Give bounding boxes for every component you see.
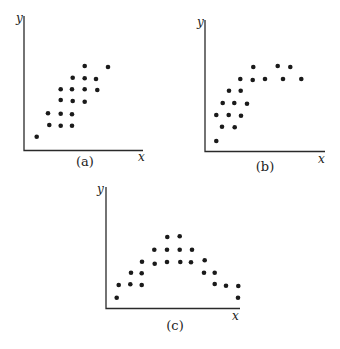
data-point bbox=[70, 75, 75, 80]
data-point bbox=[202, 258, 207, 263]
data-point bbox=[214, 139, 219, 144]
data-point bbox=[236, 284, 241, 289]
data-point bbox=[58, 98, 63, 103]
data-point bbox=[34, 134, 39, 139]
data-point bbox=[140, 259, 145, 264]
y-axis-label: y bbox=[196, 15, 204, 29]
data-point bbox=[236, 295, 241, 300]
panel-c: y x (c) bbox=[96, 182, 241, 333]
data-point bbox=[251, 65, 256, 70]
data-point bbox=[46, 111, 51, 116]
axes bbox=[106, 187, 240, 309]
data-point bbox=[82, 99, 87, 104]
data-point bbox=[299, 77, 304, 82]
data-point bbox=[245, 101, 250, 106]
data-point bbox=[165, 247, 170, 252]
data-point bbox=[227, 88, 232, 93]
data-point bbox=[165, 260, 170, 265]
data-point bbox=[238, 88, 243, 93]
panel-a: y x (a) bbox=[15, 11, 145, 169]
data-point bbox=[116, 283, 121, 288]
data-point bbox=[189, 260, 194, 265]
data-point bbox=[190, 247, 195, 252]
data-point bbox=[58, 111, 63, 116]
data-point bbox=[212, 270, 217, 275]
data-point bbox=[70, 87, 75, 92]
data-point bbox=[224, 283, 229, 288]
data-point bbox=[152, 247, 157, 252]
data-point bbox=[232, 125, 237, 130]
data-point bbox=[238, 77, 243, 82]
data-point bbox=[95, 88, 100, 93]
data-point bbox=[139, 271, 144, 276]
data-point bbox=[281, 77, 286, 82]
data-point bbox=[250, 78, 255, 83]
data-point bbox=[165, 235, 170, 240]
data-point bbox=[70, 99, 75, 104]
data-point bbox=[70, 112, 75, 117]
data-point bbox=[128, 282, 133, 287]
data-point bbox=[220, 101, 225, 106]
data-point bbox=[177, 247, 182, 252]
data-point bbox=[202, 270, 207, 275]
data-point bbox=[212, 282, 217, 287]
data-point bbox=[214, 113, 219, 118]
data-point bbox=[275, 64, 280, 69]
data-points bbox=[34, 64, 110, 139]
data-point bbox=[129, 270, 134, 275]
x-axis-label: x bbox=[318, 152, 325, 166]
data-point bbox=[177, 234, 182, 239]
data-point bbox=[178, 260, 183, 265]
data-point bbox=[232, 101, 237, 106]
axes bbox=[205, 20, 325, 152]
y-axis-label: y bbox=[15, 11, 23, 25]
data-point bbox=[82, 76, 87, 81]
panel-b: y x (b) bbox=[196, 15, 325, 174]
data-point bbox=[94, 77, 99, 82]
data-point bbox=[288, 65, 293, 70]
data-point bbox=[226, 113, 231, 118]
panel-label: (c) bbox=[166, 318, 183, 333]
data-point bbox=[58, 123, 63, 128]
x-axis-label: x bbox=[138, 150, 145, 164]
data-point bbox=[47, 123, 52, 128]
data-point bbox=[263, 77, 268, 82]
data-point bbox=[82, 87, 87, 92]
data-points bbox=[114, 234, 240, 300]
data-point bbox=[139, 283, 144, 288]
data-point bbox=[70, 123, 75, 128]
y-axis-label: y bbox=[96, 182, 104, 196]
data-point bbox=[239, 113, 244, 118]
data-point bbox=[220, 124, 225, 129]
data-points bbox=[214, 64, 304, 144]
panel-label: (a) bbox=[76, 154, 94, 169]
data-point bbox=[152, 261, 157, 266]
data-point bbox=[58, 87, 63, 92]
scatter-figure: y x (a) y x (b) y x (c) bbox=[0, 0, 340, 349]
panel-label: (b) bbox=[256, 159, 274, 174]
data-point bbox=[106, 65, 111, 70]
data-point bbox=[82, 64, 87, 69]
axes bbox=[24, 16, 143, 151]
x-axis-label: x bbox=[232, 309, 239, 323]
data-point bbox=[114, 295, 119, 300]
